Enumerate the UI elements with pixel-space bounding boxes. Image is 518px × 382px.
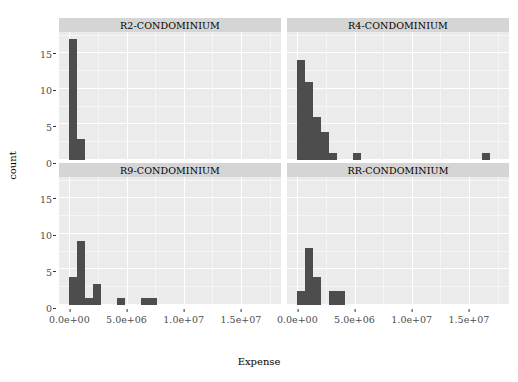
gridline-vertical-minor [212, 177, 213, 305]
gridline-vertical [412, 32, 413, 160]
gridline-horizontal [59, 233, 281, 234]
y-tick-label: 15 [40, 48, 52, 59]
facet-strip-label-2: R9-CONDOMINIUM [59, 163, 281, 177]
histogram-bar [93, 284, 101, 305]
x-axis-title-label: Expense [238, 356, 281, 367]
gridline-vertical-minor [98, 32, 99, 160]
histogram-bar [85, 298, 93, 305]
histogram-bar [321, 132, 329, 160]
gridline-horizontal [59, 268, 281, 269]
gridline-horizontal [287, 268, 509, 269]
facet-r9-condominium: R9-CONDOMINIUM [56, 163, 284, 308]
gridline-vertical-minor [270, 32, 271, 160]
x-tick-label: 1.5e+07 [449, 314, 490, 325]
gridline-vertical-minor [498, 177, 499, 305]
histogram-bar [141, 298, 157, 305]
histogram-bar [329, 153, 337, 160]
x-tick-label: 5.0e+06 [334, 314, 375, 325]
histogram-bar [297, 291, 305, 305]
facet-grid: 051015 R2-CONDOMINIUM R4-CONDOMINIUM 051… [20, 18, 512, 330]
gridline-vertical [241, 32, 242, 160]
histogram-bar [297, 60, 305, 160]
gridline-horizontal-minor [287, 70, 509, 71]
gridline-vertical-minor [440, 32, 441, 160]
facet-strip-label-0: R2-CONDOMINIUM [59, 18, 281, 32]
y-tick-label: 10 [40, 85, 52, 96]
gridline-horizontal-minor [287, 35, 509, 36]
gridline-vertical-minor [155, 177, 156, 305]
histogram-bar [482, 153, 490, 160]
gridline-vertical [469, 177, 470, 305]
gridline-vertical-minor [440, 177, 441, 305]
gridline-vertical [297, 177, 298, 305]
gridline-vertical-minor [155, 32, 156, 160]
y-axis-row-2: 051015 [20, 163, 56, 308]
gridline-vertical [355, 32, 356, 160]
facet-panel-3 [287, 177, 509, 305]
gridline-vertical [184, 32, 185, 160]
histogram-bar [77, 139, 85, 160]
histogram-bar [69, 39, 77, 160]
y-tick-label: 15 [40, 193, 52, 204]
facet-strip-label-3: RR-CONDOMINIUM [287, 163, 509, 177]
gridline-horizontal-minor [287, 106, 509, 107]
gridline-horizontal-minor [287, 251, 509, 252]
gridline-horizontal-minor [59, 70, 281, 71]
gridline-vertical-minor [498, 32, 499, 160]
gridline-vertical [184, 177, 185, 305]
gridline-horizontal [59, 159, 281, 160]
histogram-bar [305, 82, 313, 160]
gridline-horizontal-minor [59, 251, 281, 252]
x-tick-label: 0.0e+00 [277, 314, 318, 325]
gridline-vertical-minor [270, 177, 271, 305]
gridline-horizontal-minor [59, 141, 281, 142]
y-axis-row-1: 051015 [20, 18, 56, 163]
y-tick-label: 0 [46, 303, 52, 314]
histogram-bar [77, 241, 85, 305]
histogram-bar [69, 277, 77, 305]
histogram-bar [305, 248, 313, 305]
y-axis-title-label: count [7, 151, 18, 180]
x-tick-area-left: 0.0e+005.0e+061.0e+071.5e+07 [56, 308, 284, 330]
y-axis-title: count [4, 0, 20, 330]
gridline-horizontal-minor [59, 180, 281, 181]
gridline-vertical [469, 32, 470, 160]
x-tick-label: 1.0e+07 [391, 314, 432, 325]
x-axis-title: Expense [0, 356, 518, 367]
y-tick-label: 10 [40, 230, 52, 241]
x-tick-area-right: 0.0e+005.0e+061.0e+071.5e+07 [284, 308, 512, 330]
x-tick-label: 5.0e+06 [106, 314, 147, 325]
faceted-histogram-chart: count 051015 R2-CONDOMINIUM R4-CONDOMINI… [0, 0, 518, 382]
gridline-horizontal-minor [59, 215, 281, 216]
gridline-horizontal-minor [287, 180, 509, 181]
gridline-horizontal [287, 197, 509, 198]
histogram-bar [353, 153, 361, 160]
gridline-vertical-minor [383, 32, 384, 160]
gridline-horizontal [59, 88, 281, 89]
x-tick-label: 1.5e+07 [221, 314, 262, 325]
y-tick-label: 5 [46, 121, 52, 132]
facet-panel-2 [59, 177, 281, 305]
y-tick-label: 5 [46, 266, 52, 277]
x-tick-label: 1.0e+07 [163, 314, 204, 325]
histogram-bar [313, 277, 321, 305]
facet-r4-condominium: R4-CONDOMINIUM [284, 18, 512, 163]
gridline-vertical [412, 177, 413, 305]
gridline-vertical-minor [326, 177, 327, 305]
gridline-vertical [127, 32, 128, 160]
gridline-vertical [241, 177, 242, 305]
gridline-vertical [355, 177, 356, 305]
facet-rr-condominium: RR-CONDOMINIUM [284, 163, 512, 308]
facet-panel-0 [59, 32, 281, 160]
gridline-horizontal-minor [287, 215, 509, 216]
histogram-bar [313, 117, 321, 160]
x-tick-label: 0.0e+00 [49, 314, 90, 325]
y-tick-area-row-2: 051015 [20, 163, 56, 308]
gridline-vertical-minor [212, 32, 213, 160]
gridline-vertical-minor [383, 177, 384, 305]
gridline-horizontal-minor [59, 35, 281, 36]
histogram-bar [117, 298, 125, 305]
gridline-horizontal [287, 52, 509, 53]
facet-panel-1 [287, 32, 509, 160]
gridline-horizontal [287, 88, 509, 89]
